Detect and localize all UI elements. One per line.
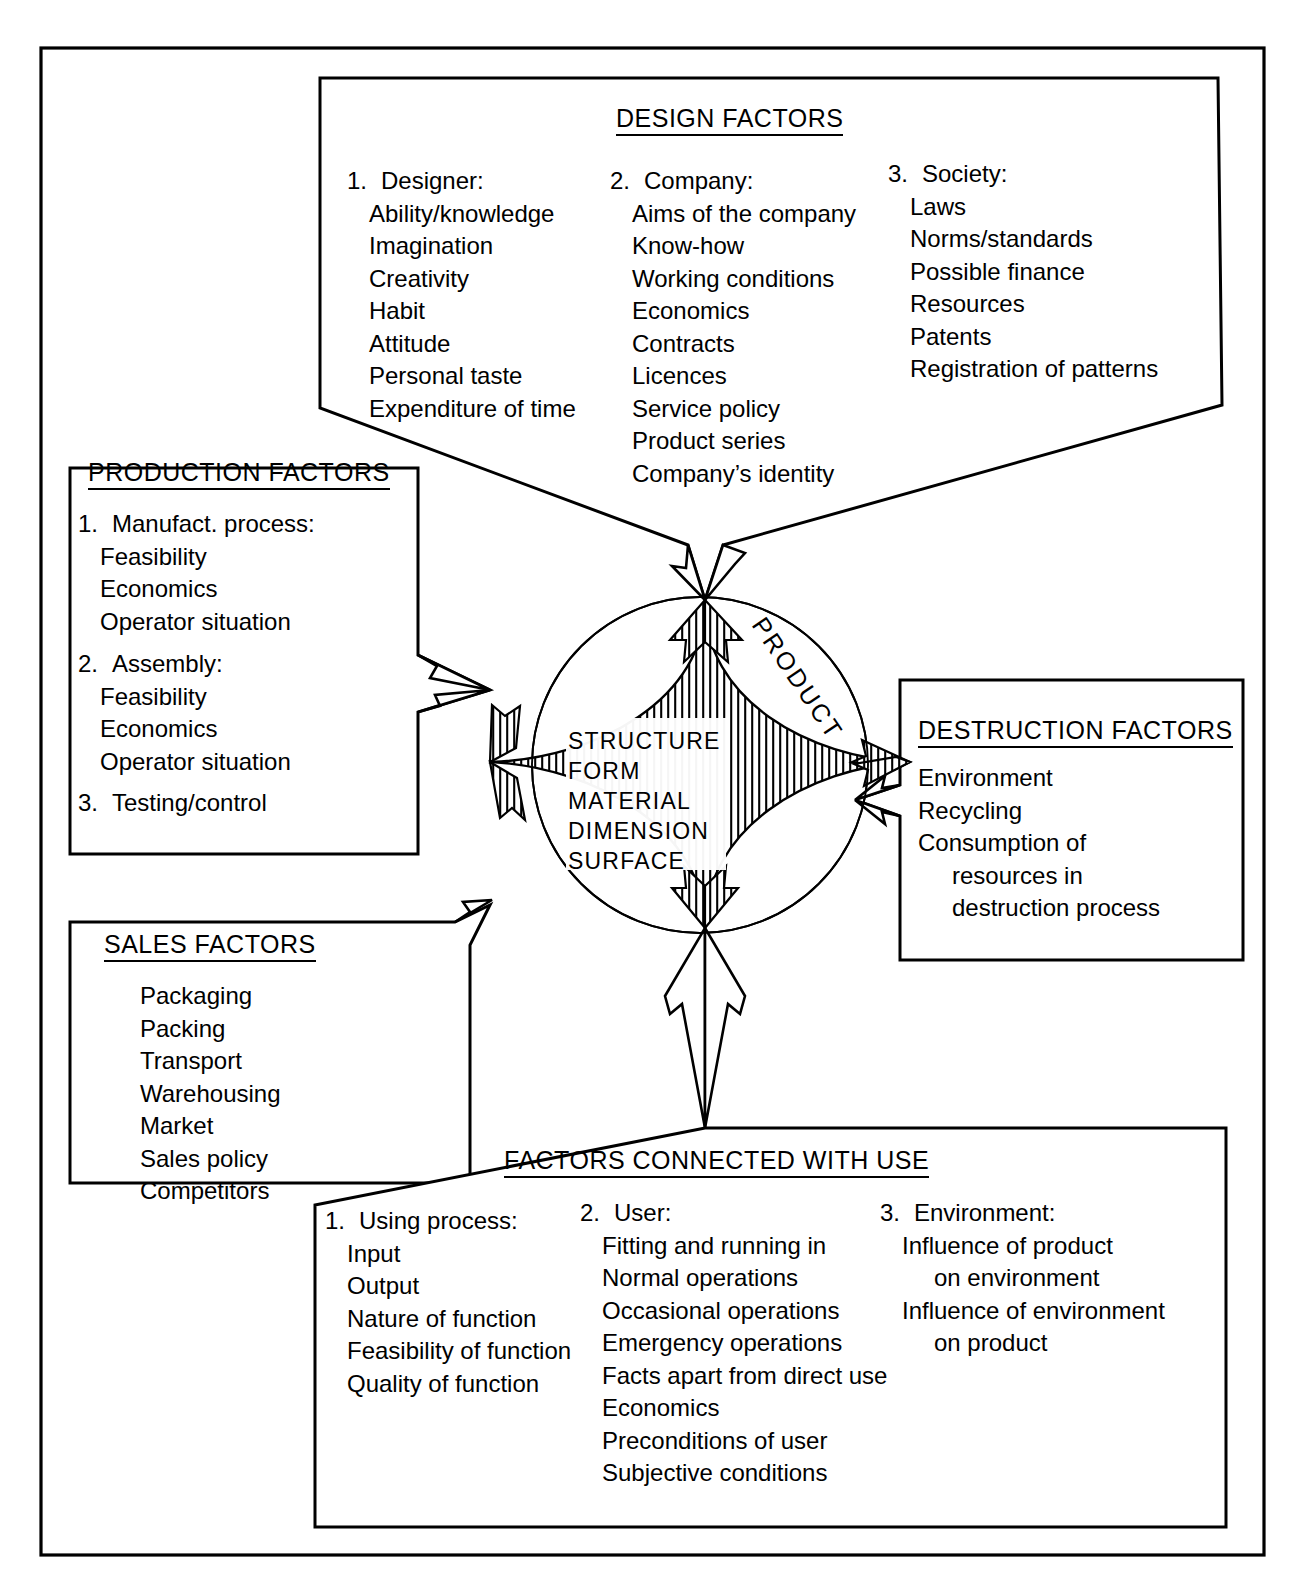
design-col3-item: Registration of patterns: [910, 353, 1218, 386]
core-line: MATERIAL: [568, 786, 721, 816]
production-g2-item: Operator situation: [100, 746, 408, 779]
use-col1-item: Quality of function: [347, 1368, 615, 1401]
use-col3-item: on product: [934, 1327, 1210, 1360]
design-col1-heading: Designer:: [381, 165, 617, 198]
sales-factors-list: Packaging Packing Transport Warehousing …: [140, 980, 400, 1208]
design-factors-column-3: 3. Society: Laws Norms/standards Possibl…: [888, 158, 1218, 386]
production-g3-heading: Testing/control: [112, 787, 408, 820]
design-col2-item: Licences: [632, 360, 900, 393]
design-col2-item: Aims of the company: [632, 198, 900, 231]
design-factors-column-1: 1. Designer: Ability/knowledge Imaginati…: [347, 165, 617, 425]
use-factors-column-1: 1. Using process: Input Output Nature of…: [325, 1205, 615, 1400]
design-col2-number: 2.: [610, 165, 630, 198]
design-col2-item: Know-how: [632, 230, 900, 263]
use-col1-item: Output: [347, 1270, 615, 1303]
use-col1-item: Feasibility of function: [347, 1335, 615, 1368]
arrow-use-to-product: [665, 928, 745, 1128]
use-col2-item: Preconditions of user: [602, 1425, 920, 1458]
production-g1-heading: Manufact. process:: [112, 508, 408, 541]
core-line: FORM: [568, 756, 721, 786]
design-col1-item: Personal taste: [369, 360, 617, 393]
destruction-item: Environment: [918, 762, 1228, 795]
design-factors-title: DESIGN FACTORS: [616, 106, 843, 136]
use-factors-title: FACTORS CONNECTED WITH USE: [504, 1148, 929, 1178]
design-col1-item: Ability/knowledge: [369, 198, 617, 231]
production-g1-item: Operator situation: [100, 606, 408, 639]
production-g2-number: 2.: [78, 648, 98, 681]
use-factors-column-2: 2. User: Fitting and running in Normal o…: [580, 1197, 920, 1490]
design-col1-item: Creativity: [369, 263, 617, 296]
use-col3-heading: Environment:: [914, 1197, 1210, 1230]
use-col2-item: Normal operations: [602, 1262, 920, 1295]
use-col2-item: Emergency operations: [602, 1327, 920, 1360]
production-g1-item: Feasibility: [100, 541, 408, 574]
sales-item: Transport: [140, 1045, 400, 1078]
use-col1-item: Input: [347, 1238, 615, 1271]
use-col1-heading: Using process:: [359, 1205, 615, 1238]
design-col1-number: 1.: [347, 165, 367, 198]
use-col2-number: 2.: [580, 1197, 600, 1230]
sales-item: Competitors: [140, 1175, 400, 1208]
design-col3-number: 3.: [888, 158, 908, 191]
design-col2-item: Product series: [632, 425, 900, 458]
sales-item: Packaging: [140, 980, 400, 1013]
production-g3-number: 3.: [78, 787, 98, 820]
design-col2-item: Contracts: [632, 328, 900, 361]
use-col3-item: Influence of product: [902, 1230, 1210, 1263]
destruction-factors-title: DESTRUCTION FACTORS: [918, 718, 1233, 748]
design-col1-item: Habit: [369, 295, 617, 328]
use-col1-number: 1.: [325, 1205, 345, 1238]
design-col1-item: Expenditure of time: [369, 393, 617, 426]
design-col3-item: Resources: [910, 288, 1218, 321]
destruction-factors-list: Environment Recycling Consumption of res…: [918, 762, 1228, 925]
production-factors-group-2: 2. Assembly: Feasibility Economics Opera…: [78, 648, 408, 778]
design-col2-heading: Company:: [644, 165, 900, 198]
use-col2-item: Fitting and running in: [602, 1230, 920, 1263]
production-g1-number: 1.: [78, 508, 98, 541]
destruction-item: resources in: [952, 860, 1228, 893]
design-col1-item: Attitude: [369, 328, 617, 361]
design-col2-item: Company’s identity: [632, 458, 900, 491]
production-factors-group-3: 3. Testing/control: [78, 787, 408, 820]
design-col3-item: Laws: [910, 191, 1218, 224]
design-col2-item: Service policy: [632, 393, 900, 426]
destruction-item: destruction process: [952, 892, 1228, 925]
design-col3-heading: Society:: [922, 158, 1218, 191]
production-g2-item: Feasibility: [100, 681, 408, 714]
use-col3-item: Influence of environment: [902, 1295, 1210, 1328]
design-col1-item: Imagination: [369, 230, 617, 263]
sales-item: Sales policy: [140, 1143, 400, 1176]
design-col3-item: Possible finance: [910, 256, 1218, 289]
core-line: SURFACE: [568, 846, 721, 876]
use-col3-number: 3.: [880, 1197, 900, 1230]
use-col2-item: Facts apart from direct use: [602, 1360, 920, 1393]
production-g2-item: Economics: [100, 713, 408, 746]
design-col2-item: Economics: [632, 295, 900, 328]
use-col3-item: on environment: [934, 1262, 1210, 1295]
sales-item: Packing: [140, 1013, 400, 1046]
production-g1-item: Economics: [100, 573, 408, 606]
core-line: DIMENSION: [568, 816, 721, 846]
production-g2-heading: Assembly:: [112, 648, 408, 681]
production-factors-title: PRODUCTION FACTORS: [88, 460, 390, 490]
destruction-item: Consumption of: [918, 827, 1228, 860]
design-col2-item: Working conditions: [632, 263, 900, 296]
product-core-text: STRUCTURE FORM MATERIAL DIMENSION SURFAC…: [568, 726, 721, 876]
diagram-page: DESIGN FACTORS 1. Designer: Ability/know…: [0, 0, 1303, 1578]
use-col1-item: Nature of function: [347, 1303, 615, 1336]
use-col2-item: Subjective conditions: [602, 1457, 920, 1490]
sales-factors-title: SALES FACTORS: [104, 932, 316, 962]
design-col3-item: Norms/standards: [910, 223, 1218, 256]
use-col2-item: Economics: [602, 1392, 920, 1425]
sales-item: Market: [140, 1110, 400, 1143]
design-col3-item: Patents: [910, 321, 1218, 354]
use-col2-item: Occasional operations: [602, 1295, 920, 1328]
destruction-item: Recycling: [918, 795, 1228, 828]
production-factors-group-1: 1. Manufact. process: Feasibility Econom…: [78, 508, 408, 638]
use-col2-heading: User:: [614, 1197, 920, 1230]
sales-item: Warehousing: [140, 1078, 400, 1111]
design-factors-column-2: 2. Company: Aims of the company Know-how…: [610, 165, 900, 490]
use-factors-column-3: 3. Environment: Influence of product on …: [880, 1197, 1210, 1360]
core-line: STRUCTURE: [568, 726, 721, 756]
